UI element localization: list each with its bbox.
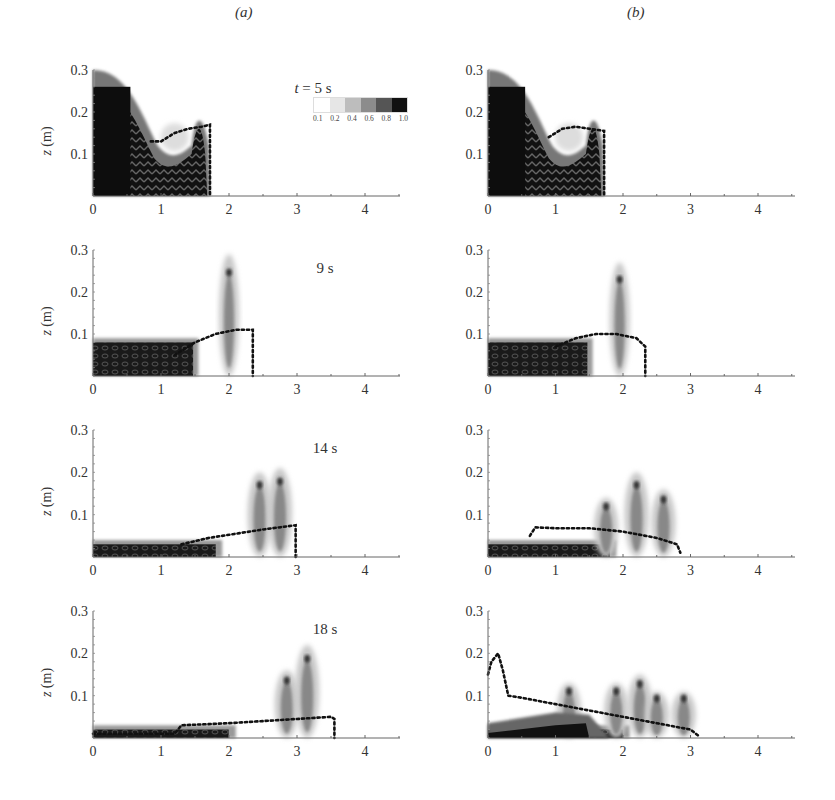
panel-b-3: 012340.10.20.3 [466, 423, 796, 578]
x-tick-label: 3 [687, 744, 694, 759]
x-tick-label: 0 [90, 744, 97, 759]
x-tick-label: 4 [362, 382, 369, 397]
x-tick-label: 2 [226, 382, 233, 397]
colorbar-ticks: 0.10.20.40.60.81.0 [313, 114, 408, 123]
y-tick-label: 0.2 [71, 285, 89, 300]
y-tick-label: 0.2 [466, 105, 484, 120]
y-tick-label: 0.2 [71, 105, 89, 120]
x-tick-label: 4 [362, 563, 369, 578]
panel-a-4: 012340.10.20.3z (m)18 s [39, 604, 400, 759]
x-tick-label: 3 [294, 744, 301, 759]
y-tick-label: 0.1 [71, 147, 89, 162]
concentration-field [488, 263, 630, 376]
colorbar-swatches [313, 97, 408, 113]
y-tick-label: 0.1 [466, 147, 484, 162]
x-tick-label: 2 [620, 563, 627, 578]
concentration-field [488, 472, 676, 557]
y-tick-label: 0.1 [466, 689, 484, 704]
x-tick-label: 3 [294, 202, 301, 217]
x-tick-label: 3 [294, 382, 301, 397]
x-tick-label: 4 [755, 202, 762, 217]
y-tick-label: 0.1 [71, 327, 89, 342]
figure: (a) (b) 012340.10.20.3z (m)t = 5 s012340… [0, 0, 835, 800]
x-tick-label: 4 [755, 382, 762, 397]
colorbar-tick-label: 0.6 [364, 114, 373, 123]
y-axis-label: z (m) [39, 668, 55, 699]
y-tick-label: 0.3 [71, 604, 89, 619]
y-tick-label: 0.3 [466, 423, 484, 438]
colorbar-swatch [330, 98, 346, 112]
x-tick-label: 1 [552, 202, 559, 217]
y-tick-label: 0.2 [466, 646, 484, 661]
x-tick-label: 2 [620, 382, 627, 397]
y-tick-label: 0.1 [466, 508, 484, 523]
x-tick-label: 0 [90, 563, 97, 578]
colorbar-swatch [376, 98, 392, 112]
colorbar-swatch [345, 98, 361, 112]
x-tick-label: 0 [90, 202, 97, 217]
panel-b-1: 012340.10.20.3 [466, 63, 796, 217]
time-label: t = 5 s [294, 80, 331, 96]
x-tick-label: 1 [158, 202, 165, 217]
y-tick-label: 0.3 [466, 63, 484, 78]
x-tick-label: 1 [158, 382, 165, 397]
y-tick-label: 0.3 [466, 243, 484, 258]
x-tick-label: 3 [294, 563, 301, 578]
y-axis-label: z (m) [39, 126, 55, 157]
panel-a-3: 012340.10.20.3z (m)14 s [39, 423, 400, 578]
x-tick-label: 1 [552, 744, 559, 759]
colorbar-tick-label: 0.1 [313, 114, 322, 123]
x-tick-label: 4 [755, 563, 762, 578]
colorbar-swatch [314, 98, 330, 112]
colorbar-tick-label: 0.8 [382, 114, 391, 123]
time-label: 14 s [313, 440, 338, 456]
y-tick-label: 0.3 [71, 423, 89, 438]
colorbar-legend: 0.10.20.40.60.81.0 [313, 97, 408, 123]
y-tick-label: 0.1 [466, 327, 484, 342]
x-tick-label: 0 [90, 382, 97, 397]
x-tick-label: 3 [687, 202, 694, 217]
plots-canvas: 012340.10.20.3z (m)t = 5 s012340.10.20.3… [0, 0, 835, 800]
x-tick-label: 3 [687, 563, 694, 578]
panel-a-2: 012340.10.20.3z (m)9 s [39, 243, 400, 397]
concentration-field [93, 254, 239, 376]
x-tick-label: 2 [620, 744, 627, 759]
x-tick-label: 0 [485, 744, 492, 759]
y-tick-label: 0.3 [71, 243, 89, 258]
time-label: 18 s [313, 621, 338, 637]
x-tick-label: 2 [226, 744, 233, 759]
colorbar-swatch [361, 98, 377, 112]
concentration-field [93, 70, 210, 196]
x-tick-label: 2 [620, 202, 627, 217]
concentration-field [93, 468, 292, 557]
y-axis-label: z (m) [39, 306, 55, 337]
x-tick-label: 0 [485, 382, 492, 397]
x-tick-label: 4 [362, 744, 369, 759]
colorbar-swatch [392, 98, 408, 112]
x-tick-label: 3 [687, 382, 694, 397]
x-tick-label: 0 [485, 202, 492, 217]
y-tick-label: 0.2 [71, 465, 89, 480]
x-tick-label: 2 [226, 563, 233, 578]
concentration-field [488, 70, 604, 196]
y-tick-label: 0.2 [466, 465, 484, 480]
x-tick-label: 1 [158, 563, 165, 578]
x-tick-label: 4 [362, 202, 369, 217]
time-label: 9 s [316, 260, 333, 276]
y-tick-label: 0.2 [71, 646, 89, 661]
x-tick-label: 4 [755, 744, 762, 759]
x-tick-label: 1 [552, 563, 559, 578]
x-tick-label: 0 [485, 563, 492, 578]
panel-b-2: 012340.10.20.3 [466, 243, 796, 397]
x-tick-label: 2 [226, 202, 233, 217]
y-tick-label: 0.3 [71, 63, 89, 78]
panel-a-1: 012340.10.20.3z (m)t = 5 s [39, 63, 400, 217]
colorbar-tick-label: 0.4 [347, 114, 356, 123]
y-tick-label: 0.1 [71, 508, 89, 523]
y-tick-label: 0.3 [466, 604, 484, 619]
x-tick-label: 1 [158, 744, 165, 759]
panel-b-4: 012340.10.20.3 [466, 604, 796, 759]
y-axis-label: z (m) [39, 487, 55, 518]
x-tick-label: 1 [552, 382, 559, 397]
colorbar-tick-label: 0.2 [330, 114, 339, 123]
